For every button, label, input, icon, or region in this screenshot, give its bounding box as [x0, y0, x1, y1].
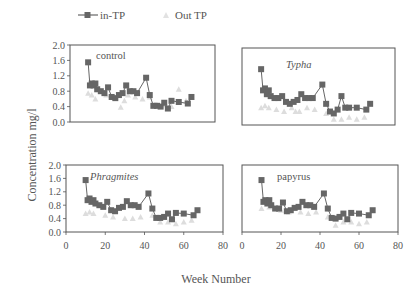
x-tick-label: 40	[140, 240, 150, 251]
x-tick-label: 80	[218, 240, 228, 251]
in-tp-point	[335, 107, 341, 113]
panel-label: Phragmites	[89, 171, 138, 182]
panel-control: 0.00.40.81.21.62.0control	[53, 40, 216, 128]
in-tp-point	[176, 99, 182, 105]
in-tp-point	[143, 75, 149, 81]
y-tick-label: 1.6	[49, 173, 62, 184]
in-tp-point	[338, 93, 344, 99]
y-tick-label: 0.4	[49, 213, 62, 224]
x-tick-label: 20	[276, 240, 286, 251]
x-tick-label: 0	[64, 240, 69, 251]
in-tp-point	[101, 90, 107, 96]
in-tp-point	[188, 94, 194, 100]
x-tick-label: 80	[393, 240, 403, 251]
in-tp-point	[354, 105, 360, 111]
in-tp-point	[325, 206, 331, 212]
in-tp-point	[104, 199, 110, 205]
in-tp-point	[145, 190, 151, 196]
in-tp-point	[323, 101, 329, 107]
in-tp-point	[311, 204, 317, 210]
in-tp-point	[105, 84, 111, 90]
in-tp-point	[346, 105, 352, 111]
in-tp-point	[173, 210, 179, 216]
legend-in-label: in-TP	[100, 9, 125, 21]
in-tp-point	[266, 87, 272, 93]
in-tp-point	[165, 106, 171, 112]
in-tp-point	[356, 211, 362, 217]
in-tp-point	[340, 211, 346, 217]
in-tp-point	[319, 82, 325, 88]
y-tick-label: 0.8	[53, 86, 66, 97]
in-tp-point	[348, 210, 354, 216]
in-tp-point	[136, 204, 142, 210]
panels: 0.00.40.81.21.62.0controlTypha0.00.40.81…	[49, 40, 404, 252]
legend-out-label: Out TP	[175, 9, 207, 21]
in-tp-point	[92, 81, 98, 87]
y-tick-label: 1.6	[53, 55, 66, 66]
in-tp-point	[185, 101, 191, 107]
x-tick-label: 60	[354, 240, 364, 251]
in-tp-point	[123, 82, 129, 88]
x-tick-label: 20	[100, 240, 110, 251]
in-tp-point	[321, 190, 327, 196]
in-tp-point	[120, 204, 126, 210]
in-tp-point	[344, 216, 350, 222]
in-tp-point	[276, 206, 282, 212]
in-tp-point	[363, 107, 369, 113]
legend-in-marker	[85, 12, 91, 18]
y-tick-label: 0.4	[53, 101, 66, 112]
legend: in-TP Out TP	[78, 9, 207, 21]
in-tp-point	[310, 95, 316, 101]
in-tp-point	[294, 97, 300, 103]
x-axis-label: Week Number	[181, 272, 250, 286]
in-tp-point	[85, 59, 91, 65]
y-tick-label: 1.2	[53, 70, 66, 81]
in-tp-point	[120, 90, 126, 96]
in-tp-point	[258, 66, 264, 72]
in-tp-point	[161, 100, 167, 106]
x-tick-label: 60	[179, 240, 189, 251]
panel-label: Typha	[286, 59, 311, 70]
in-tp-point	[147, 92, 153, 98]
in-tp-point	[259, 177, 265, 183]
chart-figure: in-TP Out TP Concentration mg/l Week Num…	[0, 0, 420, 287]
in-tp-point	[169, 98, 175, 104]
panel-phragmites: 0.00.40.81.21.62.0020406080Phragmites	[49, 160, 229, 252]
in-tp-point	[370, 207, 376, 213]
in-tp-point	[149, 206, 155, 212]
x-tick-label: 40	[315, 240, 325, 251]
in-tp-point	[134, 90, 140, 96]
panel-typha: Typha	[242, 48, 395, 125]
x-tick-label: 0	[240, 240, 245, 251]
panel-papyrus: 020406080papyrus	[240, 165, 404, 251]
in-tp-point	[279, 93, 285, 99]
y-axis-label: Concentration mg/l	[25, 108, 39, 202]
panel-label: control	[96, 50, 126, 61]
y-tick-label: 2.0	[53, 40, 66, 51]
in-tp-point	[194, 207, 200, 213]
y-tick-label: 0.0	[53, 117, 66, 128]
y-tick-label: 0.0	[49, 227, 62, 238]
y-tick-label: 1.2	[49, 186, 62, 197]
in-tp-point	[169, 216, 175, 222]
in-tp-point	[280, 200, 286, 206]
y-tick-label: 2.0	[49, 160, 62, 171]
legend-out-marker	[163, 12, 169, 18]
in-tp-point	[83, 177, 89, 183]
in-tp-point	[367, 101, 373, 107]
panel-label: papyrus	[277, 171, 310, 182]
in-tp-point	[165, 211, 171, 217]
y-tick-label: 0.8	[49, 200, 62, 211]
in-tp-point	[181, 211, 187, 217]
